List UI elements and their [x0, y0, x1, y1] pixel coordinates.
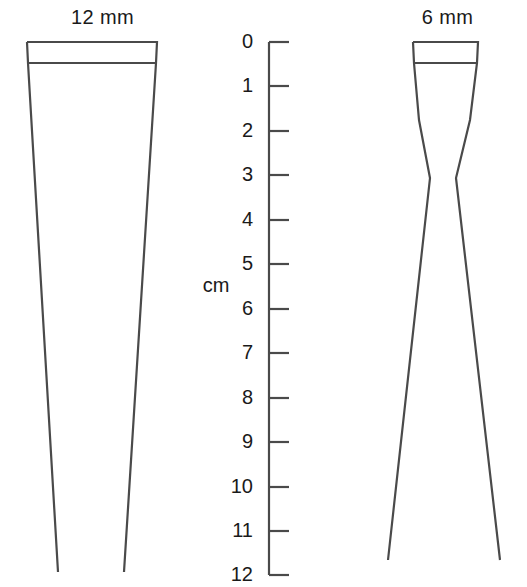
- ruler-tick-label: 8: [213, 386, 253, 409]
- ruler-ticks: [269, 42, 289, 575]
- ruler-tick-label: 9: [213, 430, 253, 453]
- ruler-tick-label: 6: [213, 297, 253, 320]
- ruler-tick-label: 12: [213, 563, 253, 586]
- ruler-tick-label: 3: [213, 163, 253, 186]
- ruler-tick-label: 10: [213, 475, 253, 498]
- right-instrument-shape: [388, 42, 500, 560]
- ruler-tick-label: 0: [213, 30, 253, 53]
- ruler-tick-label: 5: [213, 252, 253, 275]
- left-instrument-shape: [27, 42, 157, 572]
- instrument-comparison-figure: 12 mm 6 mm cm: [0, 0, 527, 587]
- ruler-tick-label: 7: [213, 341, 253, 364]
- ruler-tick-label: 4: [213, 208, 253, 231]
- ruler-tick-label: 2: [213, 119, 253, 142]
- figure-drawing: [0, 0, 527, 587]
- ruler-tick-label: 11: [213, 519, 253, 542]
- ruler-scale: [269, 42, 289, 575]
- ruler-tick-label: 1: [213, 74, 253, 97]
